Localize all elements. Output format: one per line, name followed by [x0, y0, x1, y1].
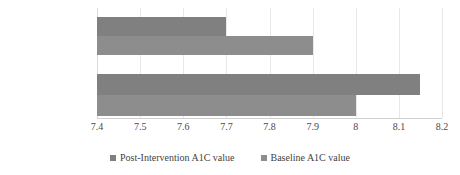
x-axis-line [97, 118, 442, 119]
legend-swatch-icon-baseline [261, 155, 267, 161]
chart-legend: Post-Intervention A1C value Baseline A1C… [0, 152, 460, 163]
bar-post-intervention-exercise-program [97, 17, 226, 36]
legend-swatch-icon-post-intervention [110, 155, 116, 161]
legend-label-post-intervention: Post-Intervention A1C value [120, 152, 234, 163]
bar-post-intervention-control-group [97, 74, 420, 95]
x-tick-label: 7.4 [77, 121, 117, 132]
legend-item-baseline: Baseline A1C value [261, 152, 350, 163]
x-tick-label: 7.6 [163, 121, 203, 132]
x-tick-label: 8.2 [422, 121, 460, 132]
legend-label-baseline: Baseline A1C value [271, 152, 350, 163]
bar-group-exercise-program [97, 17, 442, 55]
x-tick-label: 7.8 [250, 121, 290, 132]
bar-baseline-control-group [97, 95, 356, 116]
x-tick-label: 8.1 [379, 121, 419, 132]
x-tick-label: 7.9 [293, 121, 333, 132]
gridline [442, 8, 443, 118]
bar-group-control-group [97, 74, 442, 117]
x-tick-label: 7.5 [120, 121, 160, 132]
bar-chart: Exercise Program Control group 7.47.57.6… [0, 0, 460, 175]
x-axis-tick-labels: 7.47.57.67.77.87.988.18.2 [97, 121, 442, 137]
x-tick-label: 7.7 [206, 121, 246, 132]
plot-area [97, 8, 442, 118]
bar-baseline-exercise-program [97, 36, 313, 55]
legend-item-post-intervention: Post-Intervention A1C value [110, 152, 234, 163]
x-tick-label: 8 [336, 121, 376, 132]
